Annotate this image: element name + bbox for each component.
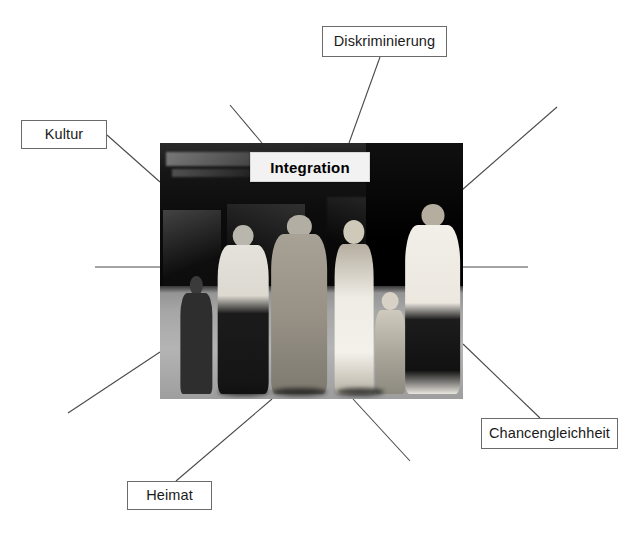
photo-figure-woman-headscarf [269, 215, 330, 394]
node-box-heimat[interactable]: Heimat [127, 481, 212, 510]
figure-body [335, 244, 374, 394]
photo-figure-man-white-shirt [402, 204, 463, 393]
center-photograph: Integration [160, 143, 463, 399]
figure-body [218, 245, 269, 394]
connector-bottom-right-spoke [353, 399, 410, 461]
connector-kultur [107, 135, 160, 182]
figure-head [421, 204, 444, 227]
connector-heimat [176, 399, 272, 481]
connector-bottom-left-spoke [68, 352, 160, 413]
mindmap-canvas: Integration Diskriminierung Kultur Chanc… [0, 0, 635, 537]
node-box-kultur[interactable]: Kultur [21, 120, 107, 149]
figure-head [382, 292, 399, 310]
figure-body [375, 310, 405, 394]
node-box-diskriminierung[interactable]: Diskriminierung [322, 26, 447, 57]
photo-figure-background-left [178, 276, 214, 394]
connector-top-left-spoke [230, 105, 262, 143]
figure-head [343, 220, 364, 244]
figure-body [405, 225, 461, 394]
figure-head [233, 225, 254, 247]
figure-body [181, 293, 212, 394]
connector-top-right-spoke [462, 107, 557, 190]
connector-chancengleichheit [463, 344, 540, 418]
connector-diskriminierung [349, 57, 380, 143]
photo-shop-window-left [163, 210, 221, 287]
node-box-chancengleichheit[interactable]: Chancengleichheit [481, 418, 618, 449]
photo-figure-man-cap [215, 225, 273, 394]
center-label-integration: Integration [250, 152, 370, 182]
photo-figure-woman-white-dress [330, 220, 378, 394]
figure-body [272, 234, 328, 393]
